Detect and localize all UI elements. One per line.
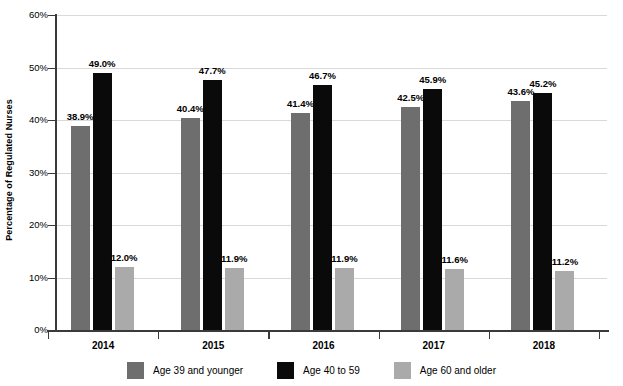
legend-item[interactable]: Age 40 to 59 <box>277 362 360 379</box>
x-axis-group-label: 2017 <box>394 340 474 351</box>
bar <box>511 101 530 330</box>
legend-label: Age 40 to 59 <box>303 365 360 376</box>
x-axis-line <box>47 330 609 332</box>
bar <box>313 85 332 330</box>
bar <box>203 80 222 330</box>
bar <box>335 268 354 330</box>
bar-value-label: 11.2% <box>542 256 588 267</box>
legend-label: Age 39 and younger <box>153 365 243 376</box>
bar-value-label: 45.2% <box>520 78 566 89</box>
x-axis-group-label: 2015 <box>173 340 253 351</box>
legend-label: Age 60 and older <box>420 365 496 376</box>
bar-chart: Percentage of Regulated Nurses 0%10%20%3… <box>0 0 623 386</box>
bar <box>401 107 420 330</box>
legend-swatch <box>127 362 144 379</box>
bar <box>225 268 244 330</box>
x-axis-tick <box>379 331 380 339</box>
bar <box>555 271 574 330</box>
legend-swatch <box>394 362 411 379</box>
bar <box>423 89 442 330</box>
bar-value-label: 12.0% <box>101 252 147 263</box>
bars-layer: 38.9%49.0%12.0%40.4%47.7%11.9%41.4%46.7%… <box>0 0 623 330</box>
x-axis-tick <box>268 331 269 339</box>
x-axis-tick <box>599 331 600 339</box>
bar <box>93 73 112 330</box>
bar <box>115 267 134 330</box>
x-axis-group-label: 2018 <box>504 340 584 351</box>
legend-swatch <box>277 362 294 379</box>
bar-value-label: 11.9% <box>211 253 257 264</box>
chart-legend: Age 39 and youngerAge 40 to 59Age 60 and… <box>0 358 623 382</box>
bar <box>533 93 552 330</box>
legend-item[interactable]: Age 60 and older <box>394 362 496 379</box>
bar <box>291 113 310 330</box>
bar <box>71 126 90 330</box>
bar-value-label: 45.9% <box>410 74 456 85</box>
x-axis-group-label: 2014 <box>63 340 143 351</box>
x-axis-group-label: 2016 <box>284 340 364 351</box>
bar <box>181 118 200 330</box>
bar-value-label: 47.7% <box>189 65 235 76</box>
x-axis-tick <box>489 331 490 339</box>
bar-value-label: 49.0% <box>79 58 125 69</box>
x-axis-tick <box>158 331 159 339</box>
bar-value-label: 46.7% <box>300 70 346 81</box>
bar-value-label: 11.9% <box>322 253 368 264</box>
bar-value-label: 11.6% <box>432 254 478 265</box>
bar <box>445 269 464 330</box>
x-axis-tick <box>48 331 49 339</box>
legend-item[interactable]: Age 39 and younger <box>127 362 243 379</box>
